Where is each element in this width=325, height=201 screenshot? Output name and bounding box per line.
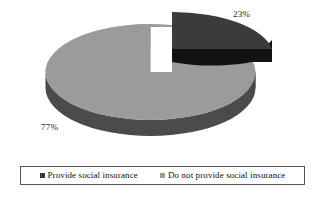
pie-slice-light-top-upper-left — [46, 24, 151, 72]
legend-item-provide-social-insurance[interactable]: Provide social insurance — [40, 171, 138, 180]
legend-label-do-not-provide-social-insurance: Do not provide social insurance — [168, 171, 286, 180]
chart-plot-area: 23% 77% — [0, 0, 325, 158]
pie-chart-figure: 23% 77% Provide social insurance Do not … — [0, 0, 325, 201]
data-label-provide-social-insurance: 23% — [233, 9, 250, 19]
pie-chart-graphic — [0, 0, 325, 158]
exploded-slice-gap — [151, 27, 173, 72]
legend-swatch-dark-icon — [40, 173, 45, 178]
legend-item-do-not-provide-social-insurance[interactable]: Do not provide social insurance — [160, 171, 286, 180]
legend-swatch-light-icon — [160, 173, 165, 178]
pie-slice-dark — [172, 12, 272, 66]
legend-label-provide-social-insurance: Provide social insurance — [48, 171, 138, 180]
data-label-do-not-provide-social-insurance: 77% — [41, 122, 58, 132]
chart-legend: Provide social insurance Do not provide … — [20, 166, 305, 185]
